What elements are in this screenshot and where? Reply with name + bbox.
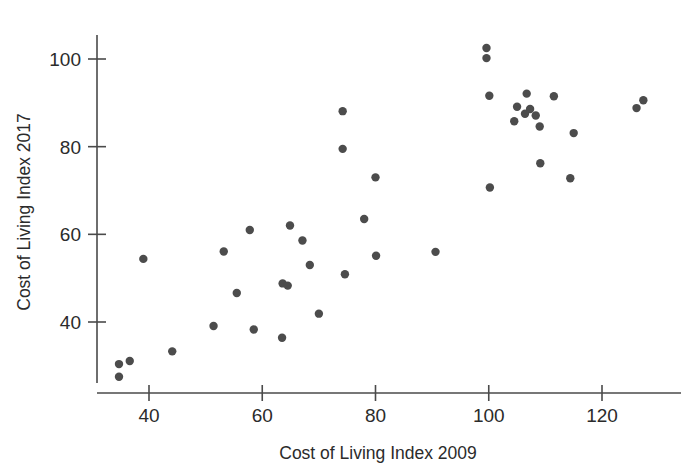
data-point	[372, 252, 380, 260]
data-point	[510, 117, 518, 125]
data-points-layer	[115, 44, 648, 381]
x-axis-tick-label: 100	[473, 405, 505, 426]
data-point	[306, 261, 314, 269]
data-point	[485, 92, 493, 100]
data-point	[550, 92, 558, 100]
y-axis: 406080100	[49, 35, 106, 383]
data-point	[209, 322, 217, 330]
scatter-plot-figure: 406080100120 406080100 Cost of Living In…	[0, 0, 687, 472]
data-point	[233, 289, 241, 297]
data-point	[220, 247, 228, 255]
data-point	[115, 360, 123, 368]
data-point	[526, 105, 534, 113]
y-axis-tick-label: 60	[60, 224, 81, 245]
y-axis-tick-label: 80	[60, 137, 81, 158]
data-point	[513, 103, 521, 111]
y-axis-tick-label: 40	[60, 312, 81, 333]
data-point	[639, 96, 647, 104]
data-point	[298, 236, 306, 244]
data-point	[536, 159, 544, 167]
x-axis-tick-label: 120	[586, 405, 618, 426]
data-point	[360, 215, 368, 223]
data-point	[431, 248, 439, 256]
data-point	[286, 221, 294, 229]
data-point	[284, 281, 292, 289]
data-point	[569, 129, 577, 137]
data-point	[341, 270, 349, 278]
data-point	[536, 122, 544, 130]
data-point	[246, 226, 254, 234]
x-axis-tick-label: 40	[138, 405, 159, 426]
data-point	[115, 373, 123, 381]
data-point	[139, 255, 147, 263]
data-point	[532, 111, 540, 119]
x-axis: 406080100120	[97, 385, 681, 426]
data-point	[168, 347, 176, 355]
y-axis-tick-label: 100	[49, 49, 81, 70]
x-axis-tick-label: 80	[365, 405, 386, 426]
x-axis-tick-label: 60	[252, 405, 273, 426]
data-point	[338, 145, 346, 153]
data-point	[315, 309, 323, 317]
data-point	[338, 107, 346, 115]
data-point	[632, 104, 640, 112]
data-point	[278, 334, 286, 342]
data-point	[371, 173, 379, 181]
data-point	[566, 174, 574, 182]
data-point	[250, 325, 258, 333]
x-axis-title: Cost of Living Index 2009	[279, 443, 477, 463]
data-point	[126, 357, 134, 365]
plot-canvas: 406080100120 406080100 Cost of Living In…	[0, 0, 687, 472]
data-point	[522, 89, 530, 97]
data-point	[482, 44, 490, 52]
y-axis-title: Cost of Living Index 2017	[14, 113, 34, 311]
data-point	[482, 54, 490, 62]
data-point	[486, 183, 494, 191]
